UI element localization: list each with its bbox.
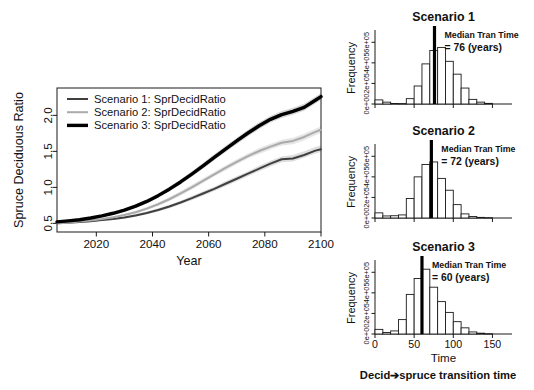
histogram-bar xyxy=(461,328,469,334)
xtick-label: 2080 xyxy=(252,237,278,250)
ytick-label: 2e+05 xyxy=(362,187,371,208)
histogram-bar xyxy=(461,88,469,104)
ytick-label: 2e+05 xyxy=(362,73,371,94)
ytick-label: 0e+00 xyxy=(362,208,371,229)
histogram-bar xyxy=(406,198,414,218)
ytick-label: 2e+05 xyxy=(362,303,371,324)
histogram-bar xyxy=(477,217,485,218)
median-annotation-line1: Median Tran Time xyxy=(432,260,506,270)
xtick-label: 2060 xyxy=(196,237,222,250)
xtick-label: 2020 xyxy=(83,237,109,250)
histogram-bar xyxy=(375,329,383,334)
histogram-bar xyxy=(445,190,453,218)
histogram-bar xyxy=(438,47,446,104)
ytick-label: 4e+05 xyxy=(362,166,371,187)
ytick-label: 6e+05 xyxy=(362,146,371,167)
histogram-bar xyxy=(414,177,422,218)
histogram-bar xyxy=(445,61,453,104)
histogram-bar xyxy=(391,331,399,334)
histogram-bar xyxy=(414,86,422,104)
histogram-bar xyxy=(445,312,453,334)
histogram-bar xyxy=(398,215,406,218)
histogram-bar xyxy=(391,216,399,218)
xtick-label: 0 xyxy=(372,338,378,350)
histogram-bar xyxy=(477,102,485,104)
legend-label-scenario-2: Scenario 2: SprDecidRatio xyxy=(94,106,226,118)
ytick-label: 2.0 xyxy=(41,107,54,123)
histogram-bar xyxy=(461,214,469,218)
histogram-yaxis-label: Frequency xyxy=(345,156,357,208)
histogram-bar xyxy=(398,104,406,105)
xtick-label: 2040 xyxy=(140,237,166,250)
histogram-bar xyxy=(485,334,493,335)
histogram-xaxis-label: Time xyxy=(431,351,456,364)
ytick-label: 4e+05 xyxy=(362,282,371,303)
median-annotation-line2: = 72 (years) xyxy=(441,156,498,167)
histogram-bar xyxy=(438,178,446,218)
ytick-label: 0e+00 xyxy=(362,94,371,115)
median-annotation-line2: = 76 (years) xyxy=(444,42,501,53)
xtick-label: 100 xyxy=(444,338,462,350)
histogram-bar xyxy=(438,302,446,334)
legend-label-scenario-3: Scenario 3: SprDecidRatio xyxy=(94,119,226,131)
histogram-bar xyxy=(422,165,430,218)
histogram-bar xyxy=(453,205,461,218)
xtick-label: 50 xyxy=(408,338,420,350)
histogram-bar xyxy=(430,287,438,334)
histogram-bar xyxy=(383,216,391,218)
xtick-label: 150 xyxy=(484,338,502,350)
histogram-title-3: Scenario 3 xyxy=(412,240,475,254)
histogram-bar xyxy=(422,64,430,104)
histogram-bar xyxy=(383,102,391,104)
histogram-bar xyxy=(469,99,477,104)
histogram-title-1: Scenario 1 xyxy=(412,10,475,24)
legend-label-scenario-1: Scenario 1: SprDecidRatio xyxy=(94,93,226,105)
ytick-label: 0e+00 xyxy=(362,324,371,345)
ytick-label: 0.5 xyxy=(41,215,54,231)
median-annotation-line1: Median Tran Time xyxy=(441,144,515,154)
histogram-bar xyxy=(453,322,461,334)
ytick-label: 6e+05 xyxy=(362,32,371,53)
histogram-title-2: Scenario 2 xyxy=(412,124,475,138)
median-annotation-line1: Median Tran Time xyxy=(444,30,518,40)
histogram-bar xyxy=(375,213,383,218)
ytick-label: 1.0 xyxy=(41,179,54,195)
histogram-bar xyxy=(391,103,399,104)
histogram-bar xyxy=(469,217,477,218)
histogram-bar xyxy=(485,103,493,104)
median-annotation-line2: = 60 (years) xyxy=(432,272,489,283)
histogram-bar xyxy=(375,100,383,104)
histogram-bar xyxy=(477,333,485,334)
ytick-label: 6e+05 xyxy=(362,262,371,283)
timeseries-yaxis-label: Spruce Deciduous Ratio xyxy=(12,92,26,228)
histogram-bar xyxy=(406,294,414,334)
histogram-bar xyxy=(383,332,391,334)
xtick-label: 2100 xyxy=(308,237,334,250)
ytick-label: 1.5 xyxy=(41,143,54,159)
histogram-bar xyxy=(469,332,477,334)
histogram-bar xyxy=(453,74,461,104)
histogram-yaxis-label: Frequency xyxy=(345,42,357,94)
histogram-yaxis-label: Frequency xyxy=(345,272,357,324)
histogram-bar xyxy=(398,320,406,334)
figure-canvas: 202020402060208021000.51.01.52.0Scenario… xyxy=(0,0,534,390)
timeseries-xaxis-label: Year xyxy=(176,254,201,268)
bottom-axis-caption: Decid➔spruce transition time xyxy=(360,369,516,381)
ytick-label: 4e+05 xyxy=(362,52,371,73)
histogram-bar xyxy=(485,218,493,219)
histogram-bar xyxy=(406,99,414,104)
